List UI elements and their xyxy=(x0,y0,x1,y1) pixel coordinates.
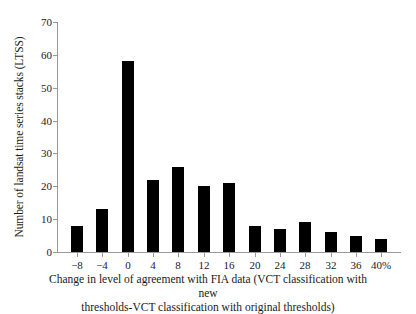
x-tick-mark xyxy=(128,253,129,257)
x-tick-label: 4 xyxy=(150,259,156,271)
x-tick-label: 24 xyxy=(275,259,286,271)
y-tick-mark xyxy=(53,186,58,187)
y-tick-mark xyxy=(53,22,58,23)
y-tick-label: 20 xyxy=(41,181,52,192)
x-tick-label: 32 xyxy=(326,259,337,271)
x-axis-title: Change in level of agreement with FIA da… xyxy=(40,272,376,314)
bar xyxy=(71,226,83,252)
x-tick-label: 16 xyxy=(224,259,235,271)
x-tick-mark xyxy=(255,253,256,257)
y-axis-title: Number of landsat time series stacks (LT… xyxy=(8,6,30,268)
y-tick-mark xyxy=(53,121,58,122)
x-axis-title-line-2: thresholds-VCT classification with origi… xyxy=(40,300,376,314)
y-tick-mark xyxy=(53,55,58,56)
x-tick-label: 8 xyxy=(175,259,181,271)
x-tick-label: 0 xyxy=(125,259,131,271)
x-tick-mark xyxy=(305,253,306,257)
x-tick-mark xyxy=(178,253,179,257)
bar xyxy=(223,183,235,252)
x-tick-mark xyxy=(229,253,230,257)
y-tick-label: 30 xyxy=(41,148,52,159)
x-tick-label: 36 xyxy=(351,259,362,271)
y-tick-label: 50 xyxy=(41,82,52,93)
y-tick-label: 70 xyxy=(41,17,52,28)
x-tick-label: 28 xyxy=(300,259,311,271)
bar xyxy=(147,180,159,252)
bar xyxy=(249,226,261,252)
x-tick-mark xyxy=(204,253,205,257)
y-tick-label: 10 xyxy=(41,214,52,225)
x-axis-title-line-1: Change in level of agreement with FIA da… xyxy=(40,272,376,300)
bar xyxy=(274,229,286,252)
bar xyxy=(375,239,387,252)
x-tick-mark xyxy=(356,253,357,257)
bar xyxy=(325,232,337,252)
bar xyxy=(350,236,362,252)
y-tick-label: 60 xyxy=(41,49,52,60)
bar xyxy=(172,167,184,252)
bar xyxy=(96,209,108,252)
x-tick-mark xyxy=(102,253,103,257)
x-tick-label: −4 xyxy=(96,259,108,271)
y-tick-label: 40 xyxy=(41,115,52,126)
x-tick-mark xyxy=(331,253,332,257)
x-tick-mark xyxy=(381,253,382,257)
y-tick-mark xyxy=(53,219,58,220)
x-tick-mark xyxy=(153,253,154,257)
x-tick-mark xyxy=(280,253,281,257)
bar xyxy=(122,61,134,252)
y-tick-mark xyxy=(53,88,58,89)
y-tick-label: 0 xyxy=(47,247,53,258)
y-tick-mark xyxy=(53,153,58,154)
x-tick-mark xyxy=(77,253,78,257)
x-tick-label: −8 xyxy=(71,259,83,271)
bar xyxy=(299,222,311,252)
y-tick-mark xyxy=(53,252,58,253)
bar xyxy=(198,186,210,252)
x-tick-label: 12 xyxy=(199,259,210,271)
x-tick-label: 20 xyxy=(250,259,261,271)
x-tick-label: 40% xyxy=(371,259,391,271)
plot-area: 010203040506070 −8−40481216202428323640% xyxy=(57,22,401,253)
